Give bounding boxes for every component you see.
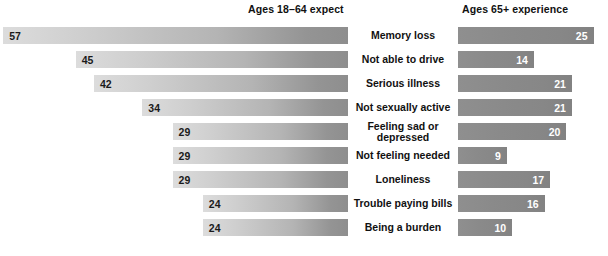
category-label: Being a burden bbox=[352, 216, 454, 240]
chart-header-right: Ages 65+ experience bbox=[462, 3, 568, 15]
left-bar-zone: 29 bbox=[0, 144, 348, 168]
left-bar-zone: 24 bbox=[0, 192, 348, 216]
bar-right: 25 bbox=[458, 27, 594, 44]
paired-bar-chart: Ages 18–64 expect Ages 65+ experience 57… bbox=[0, 0, 608, 256]
category-label-text: Being a burden bbox=[365, 222, 441, 234]
bar-left-value: 24 bbox=[209, 222, 221, 233]
right-bar-zone: 9 bbox=[458, 144, 608, 168]
bar-right-value: 21 bbox=[554, 78, 566, 89]
bar-left-value: 29 bbox=[179, 126, 191, 137]
chart-header-left: Ages 18–64 expect bbox=[248, 3, 344, 15]
right-bar-zone: 17 bbox=[458, 168, 608, 192]
bar-right: 21 bbox=[458, 75, 572, 92]
category-label-text: Trouble paying bills bbox=[354, 198, 453, 210]
category-label-text: Memory loss bbox=[371, 30, 435, 42]
category-label: Not able to drive bbox=[352, 48, 454, 72]
bar-left-value: 45 bbox=[82, 54, 94, 65]
category-label-text: Feeling sad ordepressed bbox=[367, 121, 438, 144]
category-label-text: Not feeling needed bbox=[356, 150, 450, 162]
bar-right: 9 bbox=[458, 147, 507, 164]
category-label-line1: Feeling sad or bbox=[367, 120, 438, 132]
bar-right-value: 9 bbox=[495, 150, 501, 161]
chart-row: 57Memory loss25 bbox=[0, 24, 608, 48]
category-label-text: Serious illness bbox=[366, 78, 440, 90]
left-bar-zone: 42 bbox=[0, 72, 348, 96]
bar-right-value: 17 bbox=[532, 174, 544, 185]
bar-right: 20 bbox=[458, 123, 566, 140]
chart-row: 42Serious illness21 bbox=[0, 72, 608, 96]
bar-right: 14 bbox=[458, 51, 534, 68]
bar-right-value: 14 bbox=[516, 54, 528, 65]
bar-left-value: 24 bbox=[209, 198, 221, 209]
bar-right-value: 20 bbox=[549, 126, 561, 137]
bar-right: 17 bbox=[458, 171, 550, 188]
bar-left-value: 57 bbox=[9, 30, 21, 41]
left-bar-zone: 57 bbox=[0, 24, 348, 48]
category-label-text: Not able to drive bbox=[362, 54, 444, 66]
category-label-line2: depressed bbox=[377, 131, 430, 143]
bar-right: 21 bbox=[458, 99, 572, 116]
chart-row: 29Loneliness17 bbox=[0, 168, 608, 192]
left-bar-zone: 34 bbox=[0, 96, 348, 120]
bar-left-value: 42 bbox=[100, 78, 112, 89]
right-bar-zone: 25 bbox=[458, 24, 608, 48]
bar-left: 42 bbox=[94, 75, 348, 92]
chart-row: 29Not feeling needed9 bbox=[0, 144, 608, 168]
bar-right-value: 16 bbox=[527, 198, 539, 209]
left-bar-zone: 29 bbox=[0, 120, 348, 144]
bar-left: 57 bbox=[3, 27, 348, 44]
right-bar-zone: 21 bbox=[458, 72, 608, 96]
left-bar-zone: 24 bbox=[0, 216, 348, 240]
bar-left: 29 bbox=[173, 147, 348, 164]
category-label: Serious illness bbox=[352, 72, 454, 96]
right-bar-zone: 20 bbox=[458, 120, 608, 144]
chart-row: 24Trouble paying bills16 bbox=[0, 192, 608, 216]
right-bar-zone: 21 bbox=[458, 96, 608, 120]
category-label: Trouble paying bills bbox=[352, 192, 454, 216]
bar-left: 29 bbox=[173, 123, 348, 140]
chart-row: 24Being a burden10 bbox=[0, 216, 608, 240]
category-label: Not feeling needed bbox=[352, 144, 454, 168]
bar-left: 24 bbox=[203, 195, 348, 212]
bar-right-value: 25 bbox=[576, 30, 588, 41]
bar-left-value: 29 bbox=[179, 174, 191, 185]
right-bar-zone: 16 bbox=[458, 192, 608, 216]
category-label-text: Not sexually active bbox=[356, 102, 451, 114]
category-label-text: Loneliness bbox=[376, 174, 431, 186]
bar-left: 34 bbox=[142, 99, 348, 116]
right-bar-zone: 14 bbox=[458, 48, 608, 72]
category-label: Loneliness bbox=[352, 168, 454, 192]
bar-right-value: 21 bbox=[554, 102, 566, 113]
chart-row: 29Feeling sad ordepressed20 bbox=[0, 120, 608, 144]
bar-right: 10 bbox=[458, 219, 512, 236]
bar-left: 29 bbox=[173, 171, 348, 188]
bar-left: 24 bbox=[203, 219, 348, 236]
left-bar-zone: 45 bbox=[0, 48, 348, 72]
chart-row: 45Not able to drive14 bbox=[0, 48, 608, 72]
bar-right-value: 10 bbox=[495, 222, 507, 233]
bar-left-value: 34 bbox=[148, 102, 160, 113]
bar-left: 45 bbox=[76, 51, 348, 68]
category-label: Memory loss bbox=[352, 24, 454, 48]
right-bar-zone: 10 bbox=[458, 216, 608, 240]
bar-right: 16 bbox=[458, 195, 545, 212]
category-label: Not sexually active bbox=[352, 96, 454, 120]
bar-left-value: 29 bbox=[179, 150, 191, 161]
left-bar-zone: 29 bbox=[0, 168, 348, 192]
category-label: Feeling sad ordepressed bbox=[352, 120, 454, 144]
chart-row: 34Not sexually active21 bbox=[0, 96, 608, 120]
